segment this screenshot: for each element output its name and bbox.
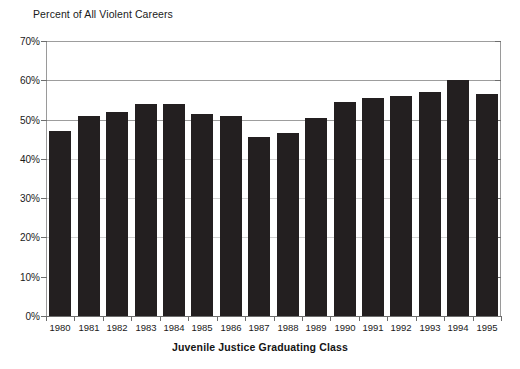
bar-1981	[78, 116, 100, 316]
bar-1991	[362, 98, 384, 316]
gridline-70	[46, 41, 501, 42]
bar-1994	[447, 80, 469, 316]
x-tick-mark-8	[274, 316, 275, 321]
y-tick-label-60: 60%	[0, 75, 40, 86]
bar-1980	[49, 131, 71, 316]
x-tick-mark-12	[387, 316, 388, 321]
x-tick-mark-11	[359, 316, 360, 321]
bar-1989	[305, 118, 327, 316]
y-tick-mark-right-70	[495, 41, 501, 42]
y-tick-mark-right-60	[495, 80, 501, 81]
x-tick-mark-15	[473, 316, 474, 321]
x-tick-mark-2	[103, 316, 104, 321]
y-tick-label-10: 10%	[0, 271, 40, 282]
x-tick-mark-14	[444, 316, 445, 321]
y-tick-mark-60	[41, 80, 47, 81]
y-tick-label-30: 30%	[0, 193, 40, 204]
x-tick-mark-end	[501, 316, 502, 321]
gridline-60	[46, 80, 501, 81]
chart-title: Percent of All Violent Careers	[33, 8, 173, 20]
y-tick-mark-50	[41, 120, 47, 121]
x-tick-mark-4	[160, 316, 161, 321]
bar-1985	[191, 114, 213, 316]
y-tick-label-50: 50%	[0, 114, 40, 125]
bar-1993	[419, 92, 441, 316]
x-tick-mark-3	[131, 316, 132, 321]
y-tick-label-40: 40%	[0, 153, 40, 164]
bar-1995	[476, 94, 498, 316]
x-tick-mark-0	[46, 316, 47, 321]
bar-chart: Percent of All Violent Careers 0%10%20%3…	[0, 0, 520, 369]
bar-1982	[106, 112, 128, 316]
x-tick-mark-10	[330, 316, 331, 321]
x-tick-mark-7	[245, 316, 246, 321]
x-axis-title: Juvenile Justice Graduating Class	[0, 341, 520, 353]
y-tick-mark-20	[41, 237, 47, 238]
bar-1992	[390, 96, 412, 316]
y-tick-mark-70	[41, 41, 47, 42]
x-tick-mark-5	[188, 316, 189, 321]
x-tick-mark-6	[217, 316, 218, 321]
bar-1984	[163, 104, 185, 316]
y-tick-label-0: 0%	[0, 311, 40, 322]
y-tick-mark-10	[41, 277, 47, 278]
y-tick-mark-30	[41, 198, 47, 199]
y-tick-label-70: 70%	[0, 36, 40, 47]
bar-1986	[220, 116, 242, 316]
y-axis-line	[46, 41, 47, 317]
x-tick-mark-1	[74, 316, 75, 321]
x-tick-label-1995: 1995	[467, 322, 507, 333]
bar-1990	[334, 102, 356, 316]
y-tick-mark-40	[41, 159, 47, 160]
y-axis-right-line	[500, 41, 501, 317]
y-tick-label-20: 20%	[0, 232, 40, 243]
x-tick-mark-13	[416, 316, 417, 321]
x-tick-mark-9	[302, 316, 303, 321]
bar-1988	[277, 133, 299, 316]
bar-1987	[248, 137, 270, 316]
bar-1983	[135, 104, 157, 316]
